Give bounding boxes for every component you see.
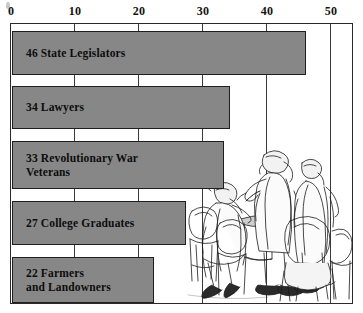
x-tick-30: 30 xyxy=(197,4,209,19)
bar-state-legislators[interactable]: 46 State Legislators xyxy=(12,31,306,75)
x-axis-tick-labels: 0 10 20 30 40 50 xyxy=(0,0,363,22)
x-tick-0: 0 xyxy=(8,4,14,19)
x-tick-20: 20 xyxy=(133,4,145,19)
x-tick-50: 50 xyxy=(325,4,337,19)
bar-label-revolutionary-war-veterans: 33 Revolutionary War Veterans xyxy=(13,151,138,179)
bar-chart: 0 10 20 30 40 50 xyxy=(0,0,363,313)
bar-label-lawyers: 34 Lawyers xyxy=(13,100,84,114)
bar-label-state-legislators: 46 State Legislators xyxy=(13,46,125,60)
x-tick-10: 10 xyxy=(69,4,81,19)
plot-area: 46 State Legislators 34 Lawyers 33 Revol… xyxy=(10,23,353,304)
bar-label-college-graduates: 27 College Graduates xyxy=(13,216,134,230)
bar-farmers-and-landowners[interactable]: 22 Farmers and Landowners xyxy=(12,257,154,303)
bar-revolutionary-war-veterans[interactable]: 33 Revolutionary War Veterans xyxy=(12,141,224,189)
x-tick-40: 40 xyxy=(261,4,273,19)
bar-label-farmers-and-landowners: 22 Farmers and Landowners xyxy=(13,266,111,294)
bars-layer: 46 State Legislators 34 Lawyers 33 Revol… xyxy=(11,24,352,303)
bar-lawyers[interactable]: 34 Lawyers xyxy=(12,86,230,129)
bar-college-graduates[interactable]: 27 College Graduates xyxy=(12,201,186,245)
